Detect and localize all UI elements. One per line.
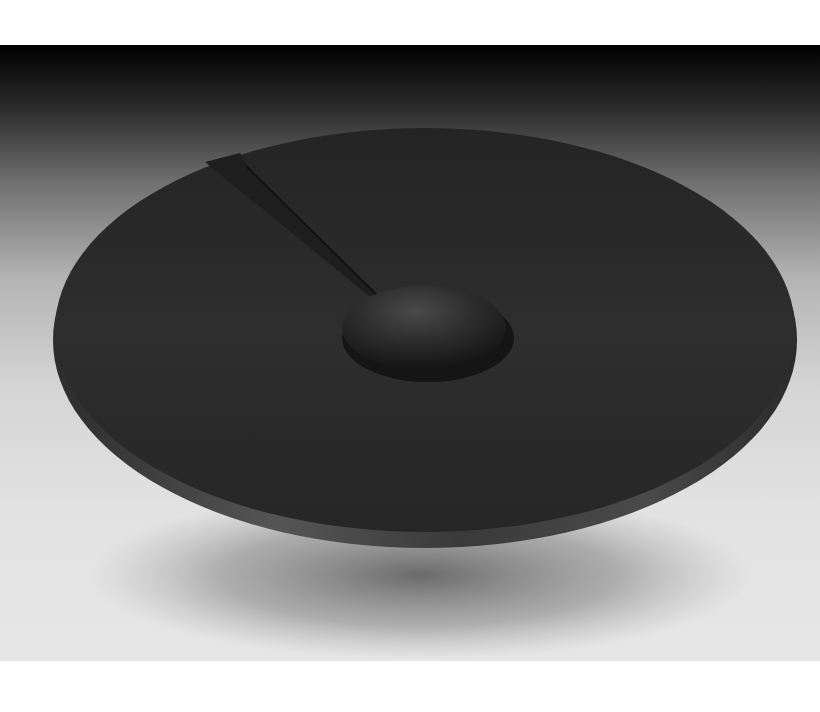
product-photo: [0, 45, 820, 661]
central-dome: [342, 286, 506, 370]
platter-illustration: [0, 45, 820, 661]
